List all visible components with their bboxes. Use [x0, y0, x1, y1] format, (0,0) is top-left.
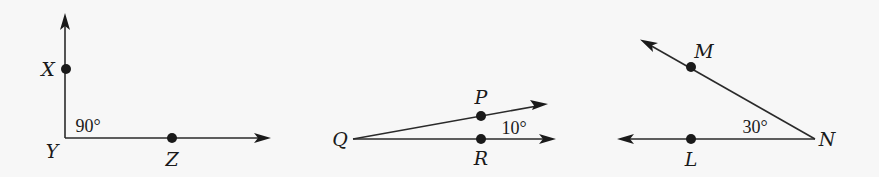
- angle-measure-90: 90°: [75, 116, 100, 136]
- arrow-right-icon: [530, 100, 548, 110]
- label-x: X: [39, 58, 56, 80]
- label-r: R: [473, 147, 488, 169]
- label-m: M: [693, 40, 714, 62]
- point-p: [476, 111, 486, 121]
- label-q: Q: [332, 128, 348, 150]
- label-n: N: [818, 128, 837, 150]
- point-m: [686, 62, 696, 72]
- angle-measure-10: 10°: [501, 118, 526, 138]
- label-y: Y: [46, 140, 61, 162]
- point-r: [476, 134, 486, 144]
- geometry-diagram: X Y Z 90° P Q R 10° M N L 30°: [0, 0, 879, 177]
- ray-nm: [648, 44, 815, 139]
- angle-mnl-figure: M N L 30°: [617, 40, 837, 171]
- label-l: L: [684, 148, 698, 170]
- point-z: [167, 133, 177, 143]
- angle-pqr-figure: P Q R 10°: [332, 86, 556, 169]
- label-z: Z: [164, 148, 179, 170]
- point-x: [61, 64, 71, 74]
- angle-measure-30: 30°: [742, 117, 767, 137]
- angle-xyz-figure: X Y Z 90°: [39, 13, 271, 170]
- label-p: P: [474, 86, 489, 108]
- arrow-up-left-icon: [640, 40, 658, 53]
- point-l: [686, 134, 696, 144]
